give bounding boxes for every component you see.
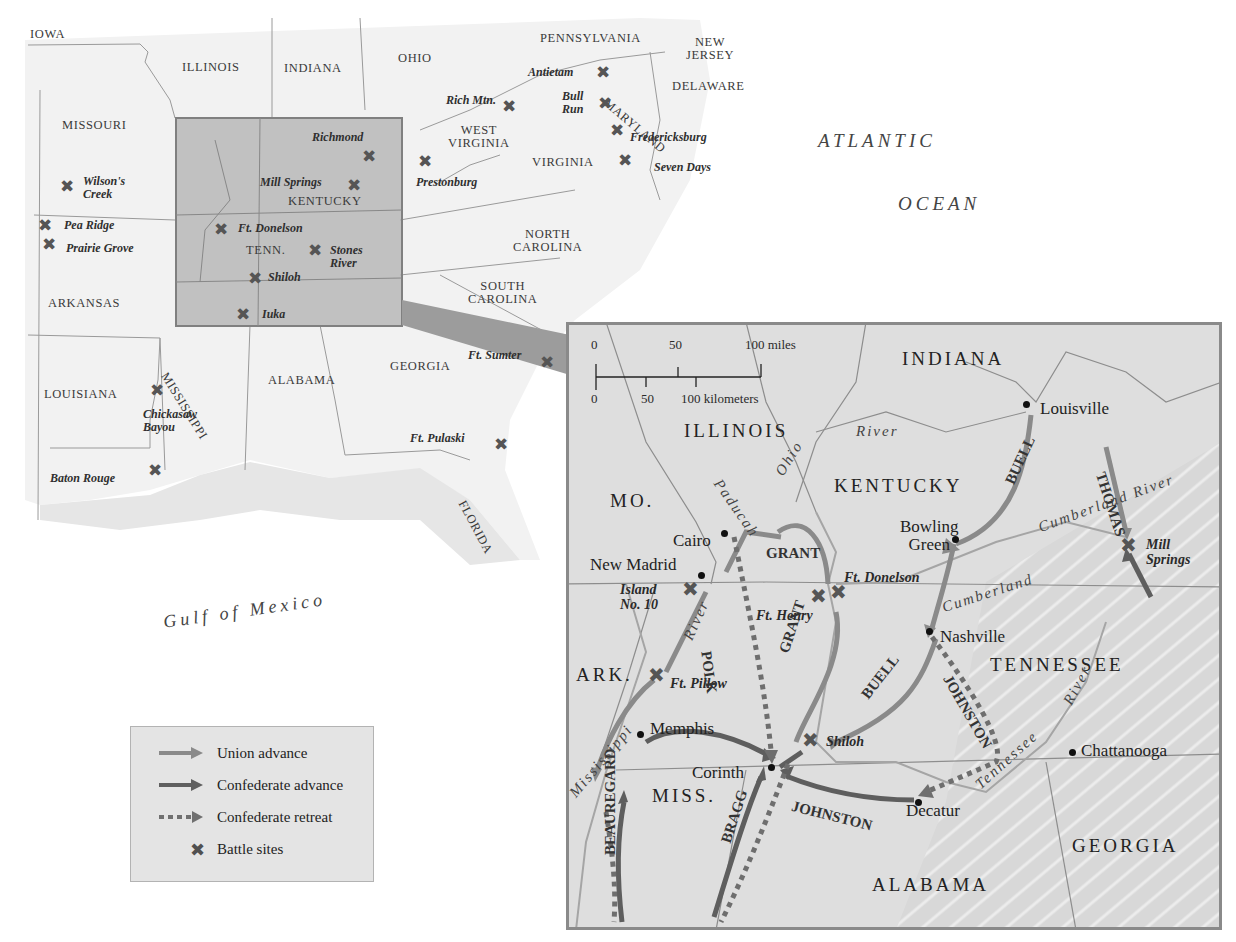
scale-km-50: 50: [641, 391, 654, 407]
retreat-arrow-polk: [734, 537, 771, 750]
battle-site-x-icon: ✖: [540, 354, 554, 371]
inset-battle-shiloh: Shiloh: [826, 734, 864, 749]
city-label-nashville: Nashville: [940, 628, 1005, 646]
inset-state-indiana: INDIANA: [902, 348, 1004, 370]
battle-label-ft-pulaski: Ft. Pulaski: [410, 432, 465, 445]
general-label-grant-0: GRANT: [766, 545, 820, 562]
battle-label-seven-days: Seven Days: [654, 161, 711, 174]
scale-km-0: 0: [591, 391, 598, 407]
battle-site-x-icon: ✖: [596, 64, 610, 81]
inset-state-mo: MO.: [610, 490, 654, 512]
battle-label-chickasaw-bayou: Chickasaw Bayou: [143, 408, 197, 434]
state-label-west-virginia: WEST VIRGINIA: [448, 124, 510, 150]
state-label-new-jersey: NEW JERSEY: [686, 36, 734, 62]
legend-label: Confederate advance: [217, 777, 343, 794]
battle-site-x-icon: ✖: [60, 178, 74, 195]
state-label-delaware: DELAWARE: [672, 80, 745, 93]
state-label-missouri: MISSOURI: [62, 119, 127, 132]
battle-site-x-icon: ✖: [682, 581, 699, 598]
battle-site-x-icon: ✖: [248, 270, 262, 287]
city-dot-icon: [1023, 401, 1030, 408]
state-label-kentucky: KENTUCKY: [288, 195, 362, 208]
ocean-label-atlantic: ATLANTIC: [818, 130, 936, 152]
inset-state-ark: ARK.: [576, 664, 633, 686]
battle-site-x-icon: ✖: [810, 588, 827, 605]
city-dot-icon: [698, 572, 705, 579]
battle-label-shiloh: Shiloh: [268, 271, 301, 284]
city-label-cairo: Cairo: [673, 532, 711, 550]
battle-label-fredericksburg: Fredericksburg: [630, 131, 707, 144]
battle-site-x-icon: ✖: [150, 382, 164, 399]
state-label-ohio: OHIO: [398, 52, 432, 65]
city-label-bowling-green: Bowling Green: [900, 518, 959, 554]
battle-site-x-icon: ✖: [648, 667, 665, 684]
battle-label-rich-mtn: Rich Mtn.: [446, 94, 496, 107]
union-arrow-grant-south: [796, 612, 838, 742]
battle-site-x-icon: ✖: [802, 732, 819, 749]
battle-label-ft-donelson: Ft. Donelson: [238, 222, 303, 235]
river-label-river-1: River: [856, 423, 898, 440]
battle-site-x-icon: ✖: [618, 152, 632, 169]
state-label-pennsylvania: PENNSYLVANIA: [540, 32, 641, 45]
legend-item-union-advance: Union advance: [159, 741, 373, 765]
map-legend: Union advance Confederate advance Confed…: [130, 726, 374, 882]
battle-site-x-icon: ✖: [42, 236, 56, 253]
ocean-label-ocean: OCEAN: [898, 193, 980, 215]
union-advance-arrow-icon: [159, 747, 205, 759]
battle-site-x-icon: ✖: [38, 217, 52, 234]
battle-label-mill-springs: Mill Springs: [260, 176, 322, 189]
scale-miles-50: 50: [669, 337, 682, 353]
battle-site-x-icon: ✖: [1120, 537, 1137, 554]
battle-label-baton-rouge: Baton Rouge: [50, 472, 115, 485]
battle-label-iuka: Iuka: [262, 308, 285, 321]
battle-site-x-icon: ✖: [148, 462, 162, 479]
city-label-memphis: Memphis: [650, 720, 714, 738]
battle-site-x-icon: ✖: [502, 98, 516, 115]
city-label-new-madrid: New Madrid: [590, 556, 676, 574]
inset-state-illinois: ILLINOIS: [684, 420, 788, 442]
battle-label-prairie-grove: Prairie Grove: [66, 242, 134, 255]
battle-site-x-icon: ✖: [308, 242, 322, 259]
state-label-tenn: TENN.: [246, 244, 285, 257]
battle-label-richmond: Richmond: [312, 131, 363, 144]
union-arrow-buell-bg-nash: [931, 544, 954, 632]
state-label-alabama: ALABAMA: [268, 374, 335, 387]
scale-miles-0: 0: [591, 337, 598, 353]
state-label-iowa: IOWA: [30, 28, 65, 41]
city-dot-icon: [721, 530, 728, 537]
inset-battle-ft-donelson: Ft. Donelson: [844, 570, 919, 585]
city-label-louisville: Louisville: [1040, 400, 1109, 418]
confederate-retreat-arrow-icon: [159, 811, 205, 823]
city-dot-icon: [768, 764, 775, 771]
inset-state-alabama: ALABAMA: [872, 874, 989, 896]
inset-state-miss: MISS.: [652, 785, 716, 807]
battle-label-ft-sumter: Ft. Sumter: [468, 349, 521, 362]
battle-site-x-icon: ✖: [362, 148, 376, 165]
legend-item-battle-sites: ✖ Battle sites: [159, 837, 373, 861]
confederate-arrow-johnston-decatur: [786, 776, 914, 800]
battle-site-x-icon: ✖: [610, 122, 624, 139]
city-label-chattanooga: Chattanooga: [1081, 742, 1167, 760]
inset-state-tennessee: TENNESSEE: [990, 654, 1124, 676]
scale-km-100: 100 kilometers: [681, 391, 759, 407]
battle-site-x-icon: ✖: [830, 584, 847, 601]
state-label-virginia: VIRGINIA: [532, 156, 594, 169]
battle-site-x-icon: ✖: [159, 839, 205, 860]
city-dot-icon: [637, 731, 644, 738]
state-label-indiana: INDIANA: [284, 62, 342, 75]
state-label-south-carolina: SOUTH CAROLINA: [468, 280, 537, 306]
inset-battle-mill-springs: Mill Springs: [1146, 537, 1190, 567]
city-dot-icon: [915, 799, 922, 806]
state-label-georgia: GEORGIA: [390, 360, 450, 373]
legend-label: Confederate retreat: [217, 809, 332, 826]
legend-item-confederate-retreat: Confederate retreat: [159, 805, 373, 829]
confederate-arrow-beauregard: [618, 802, 624, 922]
city-dot-icon: [1069, 749, 1076, 756]
confederate-advance-arrow-icon: [159, 779, 205, 791]
battle-site-x-icon: ✖: [236, 306, 250, 323]
inset-state-kentucky: KENTUCKY: [834, 475, 963, 497]
state-label-louisiana: LOUISIANA: [44, 388, 117, 401]
city-label-decatur: Decatur: [906, 802, 960, 820]
state-label-arkansas: ARKANSAS: [48, 297, 120, 310]
battle-site-x-icon: ✖: [347, 177, 361, 194]
